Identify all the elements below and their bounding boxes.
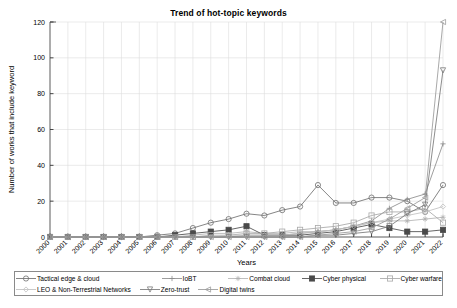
square-filled-marker-icon	[301, 273, 323, 284]
circle-marker-icon	[15, 273, 37, 284]
legend-item-label: IoBT	[183, 273, 197, 284]
svg-text:100: 100	[33, 54, 45, 61]
legend-item-label: Combat cloud	[249, 273, 290, 284]
svg-text:Years: Years	[237, 258, 256, 267]
triangle-left-marker-icon	[197, 284, 219, 295]
chart-legend: Tactical edge & cloudIoBTCombat cloudCyb…	[14, 271, 443, 296]
legend-item-cyber-physical[interactable]: Cyber physical	[301, 273, 366, 284]
svg-text:2009: 2009	[196, 239, 212, 255]
svg-text:Number of works that include k: Number of works that include keyword	[7, 66, 16, 193]
svg-text:80: 80	[37, 90, 45, 97]
star-marker-icon	[227, 273, 249, 284]
svg-text:2016: 2016	[321, 239, 337, 255]
svg-text:2012: 2012	[249, 239, 265, 255]
svg-text:40: 40	[37, 162, 45, 169]
square-open-marker-icon	[379, 273, 401, 284]
legend-item-tactical-edge-cloud[interactable]: Tactical edge & cloud	[15, 273, 99, 284]
gridlines	[50, 22, 443, 237]
svg-text:2021: 2021	[410, 239, 426, 255]
legend-row-1: Tactical edge & cloudIoBTCombat cloudCyb…	[15, 273, 442, 284]
legend-item-leo-non-terrestrial-networks[interactable]: LEO & Non-Terrestrial Networks	[15, 284, 131, 295]
svg-text:2017: 2017	[338, 239, 354, 255]
svg-text:2020: 2020	[392, 239, 408, 255]
svg-text:2011: 2011	[232, 239, 248, 255]
svg-text:2013: 2013	[267, 239, 283, 255]
svg-text:2015: 2015	[303, 239, 319, 255]
svg-text:2005: 2005	[124, 239, 140, 255]
legend-item-label: Cyber warfare	[401, 273, 442, 284]
svg-text:2022: 2022	[428, 239, 444, 255]
svg-text:2018: 2018	[356, 239, 372, 255]
triangle-down-marker-icon	[139, 284, 161, 295]
svg-text:2003: 2003	[88, 239, 104, 255]
svg-text:2014: 2014	[285, 239, 301, 255]
chart-page: Trend of hot-topic keywords 020406080100…	[0, 0, 457, 308]
plot-area: 020406080100120 200020012002200320042005…	[0, 0, 457, 268]
legend-item-label: Tactical edge & cloud	[37, 273, 99, 284]
y-axis-ticks: 020406080100120	[33, 19, 53, 241]
svg-text:2008: 2008	[178, 239, 194, 255]
diamond-marker-icon	[15, 284, 37, 295]
legend-item-zero-trust[interactable]: Zero-trust	[139, 284, 190, 295]
legend-item-label: Cyber physical	[323, 273, 366, 284]
svg-text:2001: 2001	[53, 239, 69, 255]
svg-text:2010: 2010	[213, 239, 229, 255]
legend-item-label: LEO & Non-Terrestrial Networks	[37, 284, 131, 295]
svg-text:2004: 2004	[106, 239, 122, 255]
svg-text:2006: 2006	[142, 239, 158, 255]
svg-text:2000: 2000	[35, 239, 51, 255]
svg-text:2019: 2019	[374, 239, 390, 255]
legend-item-cyber-warfare[interactable]: Cyber warfare	[379, 273, 442, 284]
svg-text:60: 60	[37, 126, 45, 133]
legend-item-combat-cloud[interactable]: Combat cloud	[227, 273, 290, 284]
svg-text:20: 20	[37, 198, 45, 205]
plus-marker-icon	[161, 273, 183, 284]
legend-item-label: Digital twins	[219, 284, 254, 295]
line-chart-svg: 020406080100120 200020012002200320042005…	[0, 0, 457, 268]
legend-item-iobt[interactable]: IoBT	[161, 273, 197, 284]
svg-text:120: 120	[33, 19, 45, 26]
legend-item-digital-twins[interactable]: Digital twins	[197, 284, 254, 295]
svg-text:2002: 2002	[70, 239, 86, 255]
svg-text:2007: 2007	[160, 239, 176, 255]
legend-item-label: Zero-trust	[161, 284, 190, 295]
legend-row-2: LEO & Non-Terrestrial NetworksZero-trust…	[15, 284, 442, 295]
